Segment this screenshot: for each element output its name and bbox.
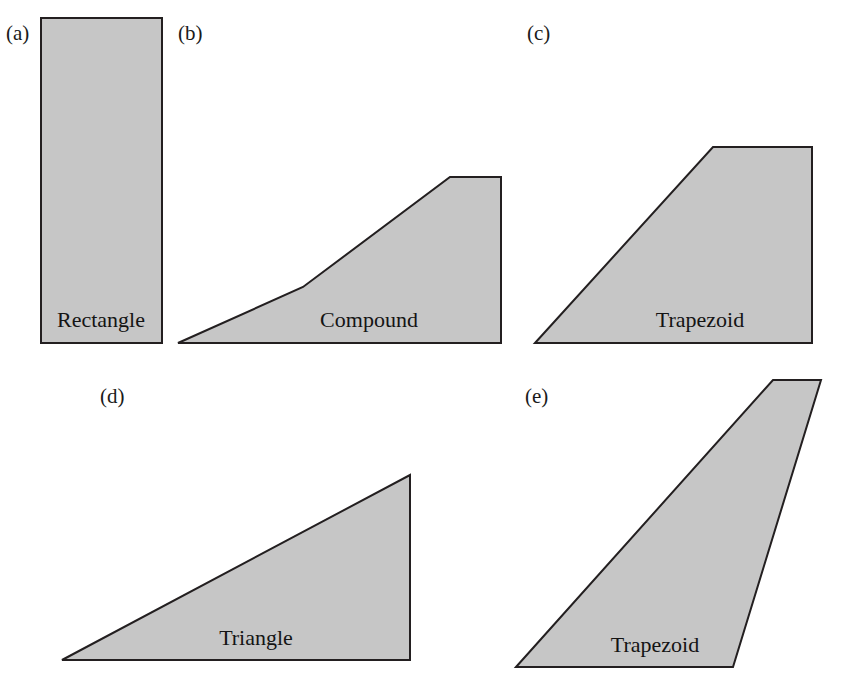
panel-letter-c: (c) <box>527 21 550 45</box>
shape-rectangle <box>41 18 162 343</box>
shape-label-trapezoid-upper: Trapezoid <box>656 307 744 332</box>
panel-letter-e: (e) <box>525 384 548 408</box>
planform-figure: (a) Rectangle (b) Compound (c) Trapezoid… <box>0 0 843 695</box>
panel-e-trapezoid: (e) Trapezoid <box>516 380 821 667</box>
shape-label-trapezoid-lower: Trapezoid <box>611 632 699 657</box>
panel-b-compound: (b) Compound <box>178 21 501 343</box>
planform-diagram-canvas: (a) Rectangle (b) Compound (c) Trapezoid… <box>0 0 843 695</box>
panel-d-triangle: (d) Triangle <box>62 384 410 660</box>
panel-letter-d: (d) <box>100 384 125 408</box>
panel-letter-b: (b) <box>178 21 203 45</box>
shape-trapezoid-lower <box>516 380 821 667</box>
shape-label-triangle: Triangle <box>219 625 293 650</box>
panel-letter-a: (a) <box>6 21 29 45</box>
shape-label-rectangle: Rectangle <box>57 307 145 332</box>
panel-a-rectangle: (a) Rectangle <box>6 18 162 343</box>
shape-label-compound: Compound <box>320 307 418 332</box>
panel-c-trapezoid: (c) Trapezoid <box>527 21 812 343</box>
